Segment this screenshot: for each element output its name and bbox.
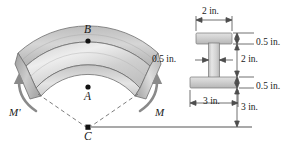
bottom-flange: [190, 77, 238, 88]
point-B-marker: [85, 38, 90, 43]
moment-M-prime-label: M': [9, 107, 21, 118]
web: [209, 43, 220, 78]
point-A-marker: [85, 84, 90, 89]
figure-graphics: [0, 0, 286, 152]
dim-top-flange-width: 2 in.: [202, 7, 219, 17]
dim-bottom-flange-thickness: 0.5 in.: [256, 82, 280, 92]
arrowhead-web-left: [203, 58, 209, 63]
point-C-label: C: [84, 131, 92, 143]
arrowhead-2in-right: [226, 18, 232, 23]
dim-web-thickness: 0.5 in.: [152, 55, 176, 65]
point-A-label: A: [84, 91, 91, 103]
arrowhead-topflange-thk-up: [235, 33, 240, 39]
point-B-label: B: [84, 24, 91, 36]
dim-radius-to-centroid: 3 in.: [241, 103, 258, 113]
arrowhead-web-right: [220, 58, 226, 63]
figure-canvas: B A C M' M 2 in. 0.5 in. 0.5 in. 2 in. 0…: [0, 0, 286, 152]
dim-bottom-flange-width: 3 in.: [203, 97, 220, 107]
top-flange: [196, 33, 232, 44]
arrowhead-radius-3in-up: [235, 88, 240, 94]
dim-top-flange-thickness: 0.5 in.: [256, 38, 280, 48]
dashed-radius-left: [38, 94, 86, 127]
moment-M-label: M: [155, 107, 164, 118]
dashed-radius-right: [90, 94, 138, 127]
arrowhead-web-height-up: [235, 44, 240, 50]
arrowhead-radius-3in-down: [235, 121, 240, 127]
i-beam-cross-section: [190, 33, 238, 88]
arrowhead-2in-left: [196, 18, 202, 23]
dim-web-height: 2 in.: [241, 55, 258, 65]
arrowhead-3in-left: [190, 101, 196, 106]
